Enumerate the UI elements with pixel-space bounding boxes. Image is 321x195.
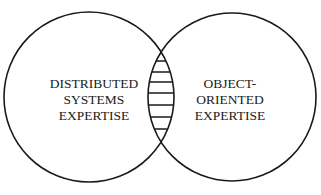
intersection-hatching (140, 61, 185, 141)
right-label-line-3: EXPERTISE (195, 108, 265, 123)
left-label-line-2: SYSTEMS (64, 92, 125, 107)
right-set-label: OBJECT- ORIENTED EXPERTISE (195, 76, 265, 123)
left-set-label: DISTRIBUTED SYSTEMS EXPERTISE (50, 76, 139, 123)
left-label-line-1: DISTRIBUTED (50, 76, 139, 91)
right-label-line-1: OBJECT- (204, 76, 257, 91)
venn-diagram: DISTRIBUTED SYSTEMS EXPERTISE OBJECT- OR… (0, 0, 321, 195)
right-label-line-2: ORIENTED (196, 92, 264, 107)
left-label-line-3: EXPERTISE (59, 108, 129, 123)
